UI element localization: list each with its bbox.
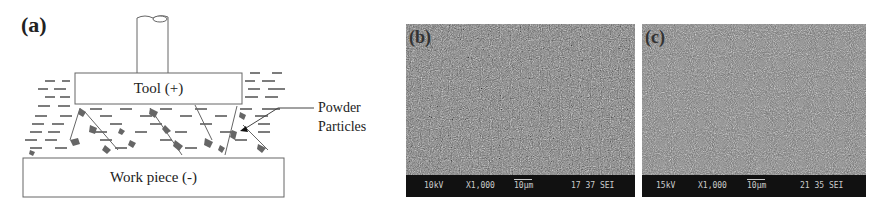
sem-info-bar: 10kV X1,000 10µm 17 37 SEI	[406, 175, 635, 197]
scale-length: 10µm	[747, 175, 766, 197]
image-code: 21 35 SEI	[800, 175, 843, 197]
sem-surface-texture	[406, 24, 635, 197]
panel-a-edm-schematic: (a)	[0, 0, 390, 211]
panel-c-sem-micrograph: (c) 15kV X1,000 10µm 21 35 SEI	[642, 24, 866, 197]
magnification: X1,000	[466, 175, 495, 197]
voltage: 10kV	[424, 175, 443, 197]
workpiece-label: Work piece (-)	[23, 158, 284, 197]
panel-b-label: (b)	[409, 27, 431, 48]
sem-info-bar: 15kV X1,000 10µm 21 35 SEI	[642, 175, 866, 197]
sem-surface-texture	[642, 24, 866, 197]
tool-electrode-label: Tool (+)	[75, 73, 242, 104]
image-code: 17 37 SEI	[571, 175, 614, 197]
panel-c-label: (c)	[645, 27, 665, 48]
powder-particles-annotation: Powder Particles	[318, 98, 366, 136]
annotation-line-2: Particles	[318, 117, 366, 136]
voltage: 15kV	[656, 175, 675, 197]
scale-length: 10µm	[514, 175, 533, 197]
magnification: X1,000	[698, 175, 727, 197]
panel-b-sem-micrograph: (b) 10kV X1,000 10µm 17 37 SEI	[406, 24, 635, 197]
annotation-line-1: Powder	[318, 98, 366, 117]
